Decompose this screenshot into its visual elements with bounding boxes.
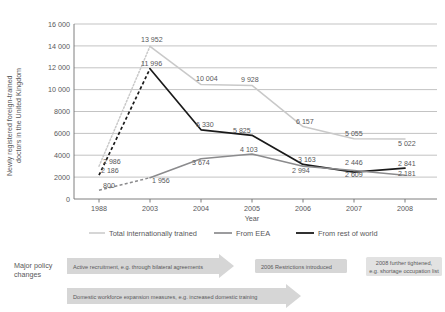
data-label-eea-2004: 3 674 — [192, 159, 210, 167]
data-label-total-2006: 6 157 — [296, 118, 314, 126]
line-chart: Newly registered foreign-trained doctors… — [0, 0, 445, 312]
data-label-total-2007: 5 055 — [345, 130, 363, 138]
x-tick-2005: 2005 — [244, 204, 260, 213]
legend-label-eea: From EEA — [236, 229, 270, 238]
legend-item-rest-of-world[interactable]: From rest of world — [296, 229, 378, 238]
data-label-eea-2003: 1 956 — [152, 177, 170, 185]
legend-item-total[interactable]: Total internationally trained — [89, 229, 197, 238]
policy-section-label-line2: changes — [14, 270, 42, 279]
data-label-total-2004: 10 004 — [196, 75, 218, 83]
data-label-row-2003: 11 996 — [141, 60, 162, 68]
y-tick-4000: 4000 — [54, 151, 70, 160]
data-label-row-2006: 3 163 — [298, 156, 316, 164]
x-axis-title: Year — [245, 214, 260, 223]
data-label-eea-1988: 800 — [103, 182, 115, 190]
data-label-total-2003: 13 952 — [141, 36, 163, 44]
data-label-eea-2005: 4 103 — [240, 146, 258, 154]
policy-item-2006-restrictions[interactable]: 2006 Restrictions introduced — [255, 259, 347, 273]
data-labels-total: 2 986 13 952 10 004 9 928 6 157 5 055 5 … — [103, 36, 416, 166]
policy-item-active-recruitment[interactable]: Active recruitment, e.g. through bilater… — [67, 254, 234, 278]
data-label-total-2008: 5 022 — [398, 140, 416, 148]
x-tick-2007: 2007 — [346, 204, 362, 213]
policy-item-label-line2: e.g. shortage occupation list — [369, 268, 439, 274]
legend-label-total: Total internationally trained — [109, 229, 197, 238]
policy-item-label-line1: 2008 further tightened, — [376, 260, 433, 266]
data-label-row-2008: 2 841 — [398, 160, 416, 168]
data-labels-eea: 800 1 956 3 674 4 103 2 994 2 609 2 181 — [103, 146, 416, 190]
x-tick-2004: 2004 — [193, 204, 209, 213]
x-tick-2003: 2003 — [142, 204, 158, 213]
legend-item-eea[interactable]: From EEA — [214, 229, 270, 238]
policy-item-2008-tightened[interactable]: 2008 further tightened, e.g. shortage oc… — [366, 257, 442, 276]
policy-section-label-line1: Major policy — [14, 261, 53, 270]
x-tick-2008: 2008 — [397, 204, 413, 213]
data-label-total-2005: 9 928 — [241, 76, 259, 84]
y-tick-8000: 8000 — [54, 107, 70, 116]
chart-container: Newly registered foreign-trained doctors… — [0, 0, 445, 312]
y-axis: 16 000 14 000 12 000 10 000 8000 6000 40… — [48, 20, 437, 204]
policy-item-domestic-workforce[interactable]: Domestic workforce expansion measures, e… — [67, 284, 301, 308]
y-tick-10000: 10 000 — [48, 85, 70, 94]
data-label-eea-2007: 2 609 — [345, 171, 363, 179]
y-axis-title: Newly registered foreign-trained doctors… — [6, 68, 23, 176]
y-axis-title-line1: Newly registered foreign-trained — [6, 75, 14, 176]
y-tick-2000: 2000 — [54, 173, 70, 182]
y-tick-0: 0 — [66, 195, 70, 204]
chart-legend: Total internationally trained From EEA F… — [89, 229, 378, 238]
policy-item-label: 2006 Restrictions introduced — [261, 264, 332, 270]
legend-label-rest-of-world: From rest of world — [318, 229, 378, 238]
data-label-row-1988: 2 186 — [101, 167, 119, 175]
y-tick-16000: 16 000 — [48, 20, 70, 29]
policy-section: Major policy changes Active recruitment,… — [14, 254, 442, 308]
data-label-row-2007: 2 446 — [345, 159, 363, 167]
data-label-row-2004: 6 330 — [196, 121, 214, 129]
y-tick-12000: 12 000 — [48, 63, 70, 72]
data-label-row-2005: 5 825 — [233, 127, 251, 135]
x-axis: 1988 2003 2004 2005 2006 2007 2008 Year — [74, 199, 437, 223]
y-tick-14000: 14 000 — [48, 42, 70, 51]
policy-item-label: Active recruitment, e.g. through bilater… — [73, 264, 203, 270]
y-axis-title-line2: doctors in the United Kingdom — [15, 68, 23, 163]
y-tick-6000: 6000 — [54, 129, 70, 138]
policy-item-label: Domestic workforce expansion measures, e… — [73, 294, 257, 300]
x-tick-1988: 1988 — [91, 204, 107, 213]
x-tick-2006: 2006 — [295, 204, 311, 213]
data-label-total-1988: 2 986 — [103, 158, 121, 166]
data-label-eea-2006: 2 994 — [292, 167, 310, 175]
data-label-eea-2008: 2 181 — [398, 170, 416, 178]
